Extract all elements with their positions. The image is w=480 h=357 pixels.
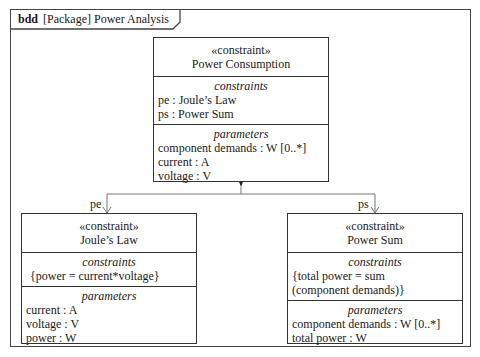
role-label-pe: pe — [90, 197, 101, 212]
block-power-sum[interactable]: «constraint» Power Sum constraints {tota… — [287, 213, 463, 344]
block-joules-law[interactable]: «constraint» Joule’s Law constraints {po… — [21, 213, 197, 344]
parameters-compartment: parameters component demands : W [0..*] … — [288, 300, 462, 348]
parameters-compartment: parameters component demands : W [0..*] … — [154, 124, 328, 186]
block-header: «constraint» Joule’s Law — [22, 214, 196, 252]
constraint-expression: {total power = sum — [292, 269, 458, 283]
constraints-compartment: constraints {power = current*voltage} — [22, 252, 196, 286]
block-header: «constraint» Power Consumption — [154, 38, 328, 76]
compartment-title: parameters — [292, 303, 458, 317]
parameter: current : A — [158, 155, 324, 169]
constraint-property: pe : Joule’s Law — [158, 93, 324, 107]
parameter: component demands : W [0..*] — [292, 317, 458, 331]
parameter: voltage : V — [26, 317, 192, 331]
compartment-title: constraints — [292, 255, 458, 269]
block-name: Power Consumption — [158, 57, 324, 71]
compartment-title: constraints — [26, 255, 192, 269]
block-name: Power Sum — [292, 233, 458, 247]
parameter: voltage : V — [158, 169, 324, 183]
stereotype: «constraint» — [292, 219, 458, 233]
parameter: power : W — [26, 331, 192, 345]
parameter: component demands : W [0..*] — [158, 141, 324, 155]
compartment-title: parameters — [26, 289, 192, 303]
block-header: «constraint» Power Sum — [288, 214, 462, 252]
constraints-compartment: constraints {total power = sum (componen… — [288, 252, 462, 300]
stereotype: «constraint» — [158, 43, 324, 57]
parameter: current : A — [26, 303, 192, 317]
role-label-ps: ps — [358, 197, 369, 212]
constraint-expression: (component demands)} — [292, 283, 458, 297]
block-name: Joule’s Law — [26, 233, 192, 247]
constraints-compartment: constraints pe : Joule’s Law ps : Power … — [154, 76, 328, 124]
constraint-expression: {power = current*voltage} — [26, 269, 192, 283]
block-power-consumption[interactable]: «constraint» Power Consumption constrain… — [153, 37, 329, 182]
compartment-title: constraints — [158, 79, 324, 93]
parameter: total power : W — [292, 331, 458, 345]
constraint-property: ps : Power Sum — [158, 107, 324, 121]
compartment-title: parameters — [158, 127, 324, 141]
stereotype: «constraint» — [26, 219, 192, 233]
parameters-compartment: parameters current : A voltage : V power… — [22, 286, 196, 348]
